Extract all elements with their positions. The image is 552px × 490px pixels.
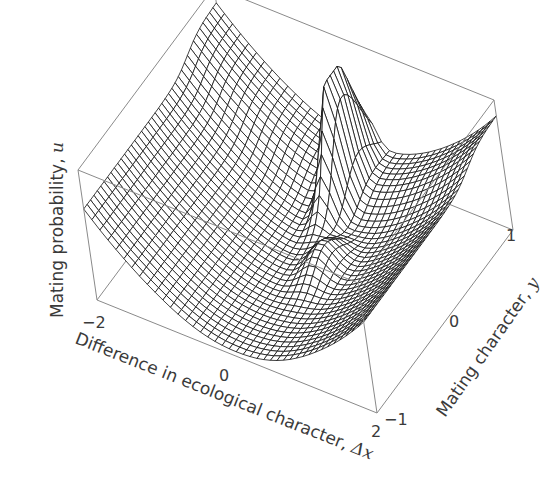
x-tick-2: 2 — [371, 422, 381, 441]
y-axis-label: Mating character, y — [432, 273, 543, 420]
surface-mesh — [84, 3, 497, 361]
y-tick-neg1: −1 — [384, 410, 408, 429]
z-axis-label: Mating probability, u — [47, 142, 67, 318]
x-tick-0: 0 — [219, 366, 229, 385]
y-tick-0: 0 — [449, 312, 459, 331]
x-tick-neg2: −2 — [82, 313, 106, 332]
y-tick-1: 1 — [506, 226, 516, 245]
surface-plot: Mating probability, u −2 0 2 Difference … — [0, 0, 552, 490]
x-axis-label: Difference in ecological character, Δx — [73, 328, 377, 464]
